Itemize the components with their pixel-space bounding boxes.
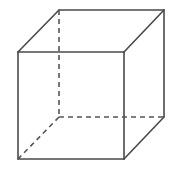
cube-hidden-edge — [18, 117, 59, 159]
cube-edge — [18, 10, 59, 52]
cube-diagram — [0, 0, 183, 191]
cube-edge — [124, 117, 164, 159]
cube-edge — [124, 10, 164, 52]
